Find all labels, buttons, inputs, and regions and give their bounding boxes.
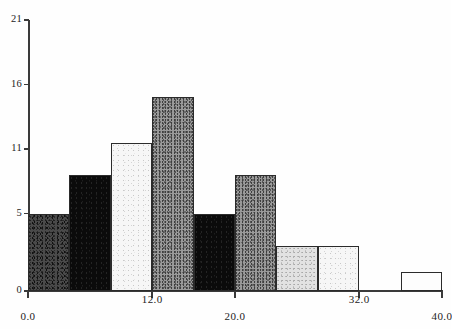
plot-area bbox=[28, 20, 442, 291]
y-axis-tick-label: 16 bbox=[11, 79, 22, 89]
x-axis-tick-label: 20.0 bbox=[225, 311, 246, 322]
y-axis-tick-label: 5 bbox=[16, 208, 22, 218]
x-axis-tick bbox=[234, 290, 236, 298]
x-axis-tick-label: 40.0 bbox=[432, 311, 452, 322]
x-axis-tick bbox=[441, 290, 443, 298]
histogram-bar bbox=[276, 246, 317, 291]
histogram-bar bbox=[28, 214, 69, 291]
x-axis-tick-label: 0.0 bbox=[21, 311, 36, 322]
x-axis-tick-label: 12.0 bbox=[142, 294, 163, 305]
histogram-bar bbox=[111, 143, 152, 291]
x-axis-tick-label: 32.0 bbox=[349, 294, 370, 305]
y-axis-tick-label: 21 bbox=[11, 14, 22, 24]
histogram-bar bbox=[318, 246, 359, 291]
y-axis-tick-label: 0 bbox=[16, 285, 22, 295]
y-axis-tick-label: 11 bbox=[11, 143, 22, 153]
x-axis-tick bbox=[27, 290, 29, 298]
histogram-bar bbox=[152, 97, 193, 291]
histogram-bar bbox=[235, 175, 276, 291]
histogram-bar bbox=[69, 175, 110, 291]
histogram-bar bbox=[194, 214, 235, 291]
histogram-bar bbox=[401, 272, 442, 291]
